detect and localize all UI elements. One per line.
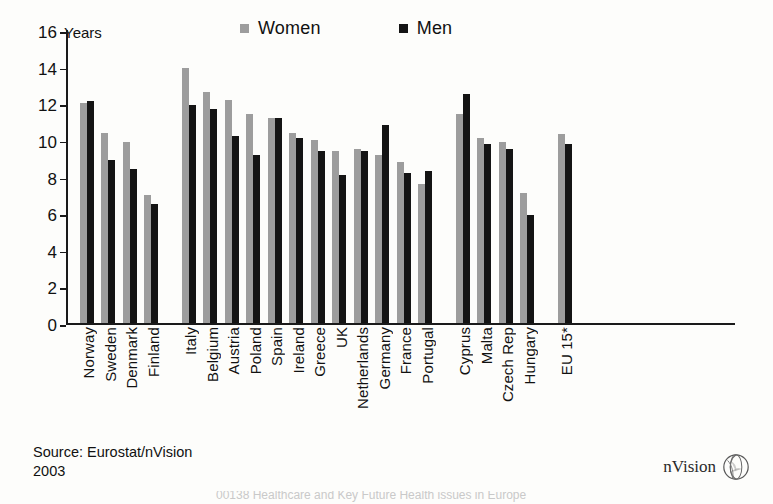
bar-women (456, 114, 463, 323)
bar-women (246, 114, 253, 323)
bar-group (119, 30, 141, 323)
x-axis-label: Spain (268, 327, 285, 366)
x-axis-labels: NorwaySwedenDenmarkFinlandItalyBelgiumAu… (66, 327, 735, 439)
bar-men (404, 173, 411, 323)
plot-area: 0246810121416 (66, 30, 735, 325)
x-axis-label: Austria (225, 327, 242, 374)
bar-group (243, 30, 265, 323)
bar-pair (329, 30, 351, 323)
bar-pair (554, 30, 576, 323)
bar-group (200, 30, 222, 323)
bar-women (80, 103, 87, 323)
x-axis-label: Cyprus (456, 327, 473, 375)
bottom-caption: 00138 Healthcare and Key Future Health i… (216, 491, 526, 502)
x-axis-label: Norway (80, 327, 97, 378)
x-axis-label: France (397, 327, 414, 374)
nvision-logo: nVision (663, 452, 751, 482)
bar-men (382, 125, 389, 323)
source-line-1: Source: Eurostat/nVision (33, 443, 192, 462)
bar-group (221, 30, 243, 323)
bar-men (361, 151, 368, 323)
bar-pair (495, 30, 517, 323)
bar-group (372, 30, 394, 323)
bar-men (318, 151, 325, 323)
bar-men (527, 215, 534, 323)
bar-group (495, 30, 517, 323)
bar-men (189, 105, 196, 323)
x-axis-label: Sweden (102, 327, 119, 382)
x-axis-line (66, 323, 735, 325)
bar-group (415, 30, 437, 323)
bar-women (520, 193, 527, 323)
bar-women (101, 133, 108, 323)
bar-women (225, 100, 232, 323)
bar-group (517, 30, 539, 323)
bar-pair (286, 30, 308, 323)
bar-women (558, 134, 565, 323)
x-axis-label: Hungary (521, 327, 538, 384)
bar-pair (178, 30, 200, 323)
bar-men (339, 175, 346, 323)
source-note: Source: Eurostat/nVision 2003 (33, 443, 192, 480)
x-axis-label: Belgium (204, 327, 221, 382)
bar-men (565, 144, 572, 323)
bar-men (108, 160, 115, 323)
bar-men (275, 118, 282, 323)
bar-men (506, 149, 513, 323)
bar-women (375, 155, 382, 323)
bar-pair (350, 30, 372, 323)
bar-pair (393, 30, 415, 323)
bar-group (393, 30, 415, 323)
bar-pair (119, 30, 141, 323)
x-axis-label: Portugal (419, 327, 436, 384)
bar-women (123, 142, 130, 323)
bar-women (499, 142, 506, 323)
bar-group (452, 30, 474, 323)
bar-group (554, 30, 576, 323)
bar-pair (76, 30, 98, 323)
source-line-2: 2003 (33, 462, 192, 481)
bar-women (182, 68, 189, 323)
bar-pair (200, 30, 222, 323)
y-tick-label: 0 (48, 317, 57, 334)
x-axis-label: Greece (311, 327, 328, 377)
bar-pair (264, 30, 286, 323)
bar-men (253, 155, 260, 323)
y-tick-label: 6 (48, 207, 57, 224)
bar-pair (452, 30, 474, 323)
nvision-logo-text: nVision (663, 457, 716, 477)
bar-women (354, 149, 361, 323)
bar-pair (98, 30, 120, 323)
y-tick-label: 2 (48, 280, 57, 297)
y-tick-label: 10 (38, 133, 57, 150)
bar-group (76, 30, 98, 323)
x-axis-label: Finland (145, 327, 162, 377)
x-axis-label: Italy (182, 327, 199, 355)
x-axis-label: UK (333, 327, 350, 348)
x-axis-label: Ireland (290, 327, 307, 374)
bar-women (477, 138, 484, 323)
bar-group (474, 30, 496, 323)
chart-container: Women Men Years 0246810121416 NorwaySwed… (0, 0, 773, 504)
bar-group (178, 30, 200, 323)
x-axis-label: Germany (376, 327, 393, 389)
bar-pair (307, 30, 329, 323)
bar-men (130, 169, 137, 323)
x-axis-label: Denmark (123, 327, 140, 389)
bar-men (425, 171, 432, 323)
bar-group (286, 30, 308, 323)
x-axis-label: Czech Rep (499, 327, 516, 402)
x-axis-label: EU 15* (558, 327, 575, 375)
bar-group (350, 30, 372, 323)
bar-women (144, 195, 151, 323)
y-tick-label: 16 (38, 24, 57, 41)
bar-pair (372, 30, 394, 323)
bar-group (264, 30, 286, 323)
bar-women (268, 118, 275, 323)
bar-women (418, 184, 425, 323)
bar-pair (141, 30, 163, 323)
bar-group (307, 30, 329, 323)
bar-men (87, 101, 94, 323)
bar-group (98, 30, 120, 323)
bar-men (232, 136, 239, 323)
